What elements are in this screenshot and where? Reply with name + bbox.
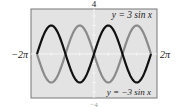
- annotation-y-neg3sinx: y = −3 sin x: [106, 87, 151, 97]
- y-tick-label-bottom: −4: [90, 101, 98, 109]
- y-tick-label-top: 4: [92, 0, 97, 9]
- annotation-y-3sinx: y = 3 sin x: [111, 10, 153, 20]
- x-tick-label-right: 2π: [160, 49, 171, 60]
- chart: 4 −4 −2π 2π y = 3 sin x y = −3 sin x: [0, 0, 177, 109]
- x-tick-label-left: −2π: [11, 49, 29, 60]
